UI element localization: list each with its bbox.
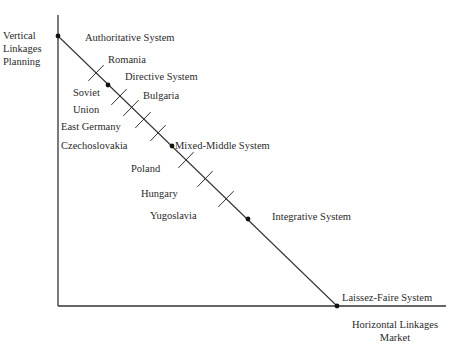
label-poland: Poland bbox=[131, 162, 160, 175]
system-point-integrative-system bbox=[246, 217, 251, 222]
system-point-laissez-faire-system bbox=[335, 304, 340, 309]
label-mixed-middle-system: Mixed-Middle System bbox=[175, 139, 270, 152]
x-axis-label-horizontal-linkages: Horizontal Linkages bbox=[342, 318, 448, 331]
label-romania: Romania bbox=[108, 53, 146, 66]
label-yugoslavia: Yugoslavia bbox=[150, 209, 197, 222]
label-soviet: Soviet bbox=[73, 86, 100, 99]
system-point-mixed-middle-system bbox=[170, 144, 175, 149]
y-axis-label-linkages: Linkages bbox=[3, 42, 42, 55]
label-laissez-faire-system: Laissez-Faire System bbox=[342, 291, 432, 304]
country-tick-east-germany bbox=[135, 112, 150, 128]
label-east-germany: East Germany bbox=[61, 120, 121, 133]
label-directive-system: Directive System bbox=[125, 70, 198, 83]
country-tick-bulgaria bbox=[123, 100, 138, 116]
x-axis-label-market: Market bbox=[342, 331, 448, 344]
system-point-authoritative-system bbox=[56, 34, 61, 39]
system-point-directive-system bbox=[106, 83, 111, 88]
y-axis-label-vertical: Vertical bbox=[3, 29, 36, 42]
label-union: Union bbox=[73, 103, 99, 116]
label-hungary: Hungary bbox=[141, 187, 178, 200]
y-axis-label-planning: Planning bbox=[3, 55, 40, 68]
label-authoritative-system: Authoritative System bbox=[85, 31, 175, 44]
country-tick-soviet-union bbox=[111, 89, 126, 105]
label-czechoslovakia: Czechoslovakia bbox=[61, 139, 127, 152]
label-integrative-system: Integrative System bbox=[272, 210, 351, 223]
label-bulgaria: Bulgaria bbox=[143, 89, 179, 102]
